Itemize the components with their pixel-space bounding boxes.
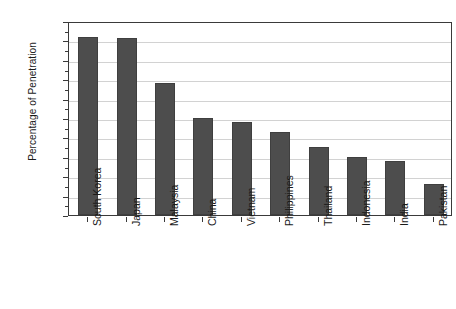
x-tick-mark — [394, 217, 395, 222]
x-tick-label: South Korea — [91, 168, 103, 226]
bar — [117, 38, 137, 215]
plot-area — [68, 22, 452, 216]
x-tick-label: Malaysia — [168, 185, 180, 226]
x-tick-mark — [356, 217, 357, 222]
bar-chart: Percentage of Penetration 10090807060504… — [0, 0, 456, 309]
y-axis-title: Percentage of Penetration — [27, 2, 38, 202]
x-tick-mark — [318, 217, 319, 222]
x-tick-mark — [164, 217, 165, 222]
x-tick-label: Japan — [130, 197, 142, 226]
x-tick-label: Vietnam — [245, 188, 257, 226]
x-tick-mark — [202, 217, 203, 222]
x-tick-label: Thailand — [322, 186, 334, 226]
x-tick-mark — [433, 217, 434, 222]
x-tick-mark — [241, 217, 242, 222]
bars-layer — [69, 23, 451, 215]
x-tick-mark — [126, 217, 127, 222]
x-tick-label: Philippines — [283, 175, 295, 226]
x-tick-mark — [279, 217, 280, 222]
x-tick-label: Pakistan — [437, 186, 449, 226]
x-tick-label: India — [398, 203, 410, 226]
x-tick-mark — [87, 217, 88, 222]
x-tick-label: China — [206, 199, 218, 226]
x-tick-label: Indonesia — [360, 180, 372, 226]
y-tick-mark — [63, 216, 68, 217]
